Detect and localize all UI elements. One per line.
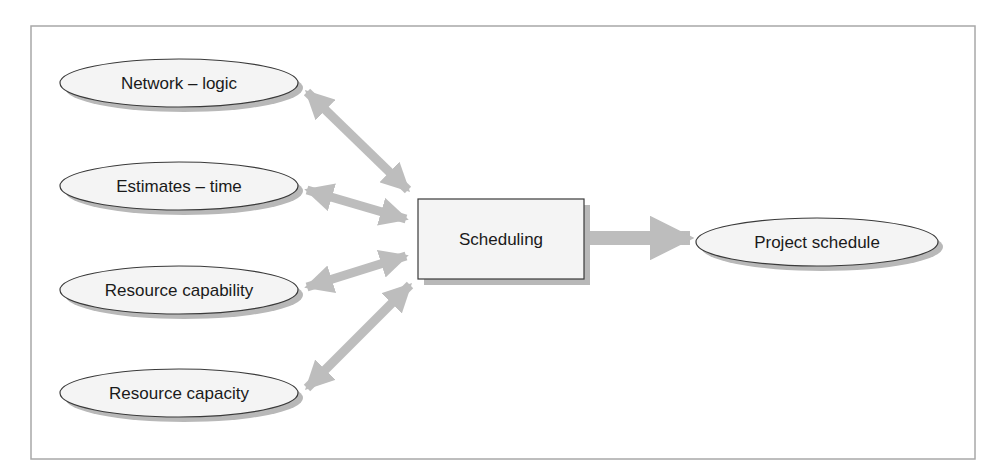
node-label: Estimates – time bbox=[116, 177, 242, 196]
node-label: Network – logic bbox=[121, 74, 238, 93]
node-label: Scheduling bbox=[459, 230, 543, 249]
edge-network-logic-scheduling bbox=[307, 92, 408, 190]
node-estimates-time: Estimates – time bbox=[60, 162, 303, 215]
node-scheduling: Scheduling bbox=[418, 199, 590, 285]
node-label: Resource capability bbox=[105, 281, 254, 300]
node-resource-capability: Resource capability bbox=[60, 266, 303, 319]
node-network-logic: Network – logic bbox=[60, 59, 303, 112]
scheduling-diagram: Network – logic Estimates – time Resourc… bbox=[0, 0, 999, 476]
edge-estimates-time-scheduling bbox=[307, 190, 406, 219]
node-project-schedule: Project schedule bbox=[696, 218, 943, 271]
node-label: Project schedule bbox=[754, 233, 880, 252]
node-label: Resource capacity bbox=[109, 384, 249, 403]
edge-resource-capability-scheduling bbox=[307, 256, 406, 287]
node-resource-capacity: Resource capacity bbox=[60, 369, 303, 422]
edge-resource-capacity-scheduling bbox=[307, 285, 410, 388]
